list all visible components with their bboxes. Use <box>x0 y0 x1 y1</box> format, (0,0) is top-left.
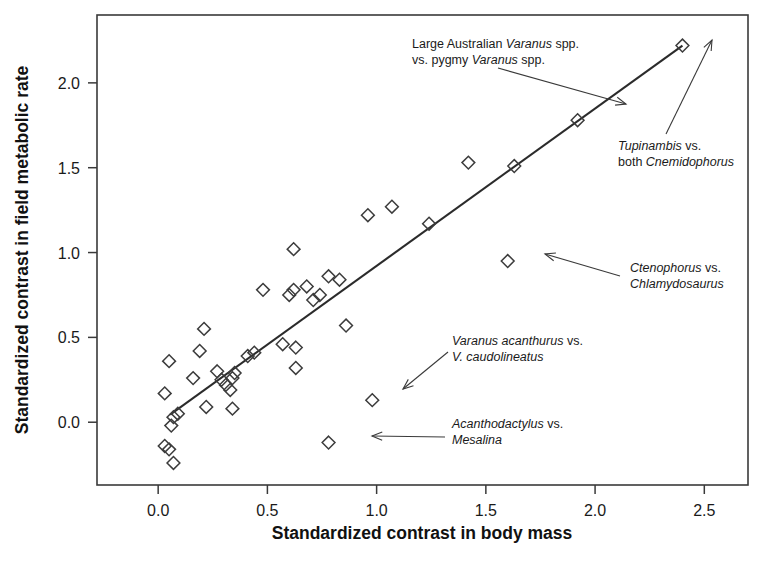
annotation-varanus-acanthurus-caudolineatus: Varanus acanthurus vs.V. caudolineatus <box>403 334 583 389</box>
annotation-label: Tupinambis vs.both Cnemidophorus <box>618 139 734 169</box>
data-point-marker <box>501 255 514 268</box>
annotation-leader-line <box>666 40 712 134</box>
y-tick-label: 0.0 <box>58 414 80 431</box>
regression-line <box>170 46 682 415</box>
data-point-marker <box>219 378 232 391</box>
annotation-leader-line <box>498 68 626 104</box>
data-point-marker <box>340 319 353 332</box>
x-tick-label: 0.0 <box>147 502 169 519</box>
y-axis-ticks <box>88 83 97 422</box>
y-tick-label: 1.0 <box>58 245 80 262</box>
data-point-marker <box>211 365 224 378</box>
data-point-marker <box>386 200 399 213</box>
data-point-marker <box>283 289 296 302</box>
annotation-leader-line <box>372 436 445 437</box>
x-tick-label: 2.5 <box>693 502 715 519</box>
data-point-marker <box>300 280 313 293</box>
data-point-marker <box>287 243 300 256</box>
y-tick-label: 1.5 <box>58 160 80 177</box>
x-tick-label: 1.5 <box>475 502 497 519</box>
data-point-marker <box>289 362 302 375</box>
data-point-marker <box>322 270 335 283</box>
data-point-marker <box>226 402 239 415</box>
data-points <box>158 39 689 469</box>
annotation-label: Acanthodactylus vs.Mesalina <box>451 417 563 447</box>
annotation-label: Varanus acanthurus vs.V. caudolineatus <box>452 334 583 364</box>
scatter-plot: 0.00.51.01.52.02.5 0.00.51.01.52.0 Large… <box>0 0 768 574</box>
data-point-marker <box>193 345 206 358</box>
annotation-acanthodactylus-mesalina: Acanthodactylus vs.Mesalina <box>372 417 563 447</box>
y-tick-label: 2.0 <box>58 75 80 92</box>
x-tick-label: 0.5 <box>256 502 278 519</box>
data-point-marker <box>462 156 475 169</box>
data-point-marker <box>198 322 211 335</box>
data-point-marker <box>287 283 300 296</box>
annotation-large-australian-varanus: Large Australian Varanus spp.vs. pygmy V… <box>412 37 626 105</box>
annotation-label: Ctenophorus vs.Chlamydosaurus <box>630 261 724 291</box>
annotation-layer: Large Australian Varanus spp.vs. pygmy V… <box>372 37 734 447</box>
data-point-marker <box>187 372 200 385</box>
data-point-marker <box>276 338 289 351</box>
x-tick-label: 2.0 <box>584 502 606 519</box>
data-point-marker <box>158 387 171 400</box>
data-point-marker <box>333 273 346 286</box>
annotation-label: Large Australian Varanus spp.vs. pygmy V… <box>412 37 579 67</box>
data-point-marker <box>361 209 374 222</box>
x-axis-ticks <box>158 485 704 494</box>
data-point-marker <box>167 457 180 470</box>
data-point-marker <box>163 355 176 368</box>
regression-line-path <box>170 46 682 415</box>
annotation-ctenophorus-chlamydosaurus: Ctenophorus vs.Chlamydosaurus <box>545 253 724 291</box>
x-axis-title: Standardized contrast in body mass <box>272 523 573 543</box>
annotation-leader-line <box>545 254 620 276</box>
data-point-marker <box>322 436 335 449</box>
data-point-marker <box>289 341 302 354</box>
plot-frame <box>97 15 748 485</box>
annotation-tupinambis-cnemidophorus: Tupinambis vs.both Cnemidophorus <box>618 40 734 169</box>
y-axis-title: Standardized contrast in field metabolic… <box>12 65 32 434</box>
annotation-leader-line <box>403 352 448 389</box>
figure-container: 0.00.51.01.52.02.5 0.00.51.01.52.0 Large… <box>0 0 768 574</box>
data-point-marker <box>366 394 379 407</box>
y-tick-label: 0.5 <box>58 329 80 346</box>
data-point-marker <box>200 401 213 414</box>
x-tick-label: 1.0 <box>365 502 387 519</box>
data-point-marker <box>224 384 237 397</box>
x-axis-tick-labels: 0.00.51.01.52.02.5 <box>147 502 715 519</box>
y-axis-tick-labels: 0.00.51.01.52.0 <box>58 75 80 431</box>
data-point-marker <box>257 283 270 296</box>
